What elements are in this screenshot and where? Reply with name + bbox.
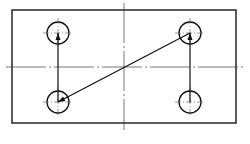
drawing-canvas: [0, 0, 250, 144]
toolpath-arrow-top-right-to-bottom-left: [58, 33, 190, 102]
toolpath-diagram: [0, 0, 250, 144]
toolpath-group: [58, 33, 190, 102]
